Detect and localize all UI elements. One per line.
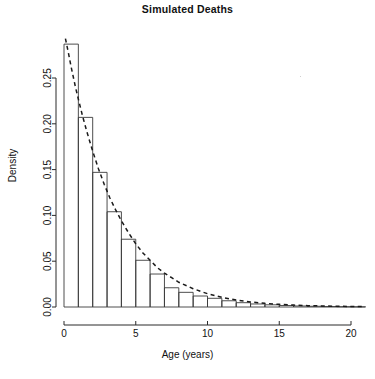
x-tick-label: 15 bbox=[274, 328, 286, 339]
histogram-bar bbox=[121, 239, 135, 307]
x-tick-label: 5 bbox=[133, 328, 139, 339]
histogram-bar bbox=[222, 301, 236, 307]
histogram-bar bbox=[93, 172, 107, 307]
histogram-bars bbox=[64, 44, 365, 307]
histogram-bar bbox=[193, 296, 207, 307]
histogram-bar bbox=[164, 288, 178, 307]
histogram-bar bbox=[236, 303, 250, 307]
histogram-bar bbox=[150, 274, 164, 307]
histogram-bar bbox=[251, 304, 265, 307]
y-tick-label: 0.15 bbox=[42, 159, 53, 179]
histogram-bar bbox=[136, 260, 150, 307]
histogram-bar bbox=[107, 212, 121, 307]
x-tick-label: 10 bbox=[202, 328, 214, 339]
y-tick-label: 0.10 bbox=[42, 205, 53, 225]
chart-figure: Simulated Deaths Age (years) Density 0.0… bbox=[0, 0, 375, 379]
y-tick-label: 0.00 bbox=[42, 297, 53, 317]
x-axis: 05101520 bbox=[61, 321, 357, 339]
y-axis: 0.000.050.100.150.200.25 bbox=[42, 68, 56, 317]
histogram-bar bbox=[64, 44, 78, 307]
y-tick-label: 0.05 bbox=[42, 251, 53, 271]
x-tick-label: 0 bbox=[61, 328, 67, 339]
histogram-bar bbox=[179, 292, 193, 307]
histogram-bar bbox=[78, 117, 92, 307]
y-tick-label: 0.20 bbox=[42, 114, 53, 134]
plot-canvas: 0.000.050.100.150.200.25 05101520 bbox=[0, 0, 375, 379]
density-curve bbox=[65, 39, 365, 307]
x-tick-label: 20 bbox=[345, 328, 357, 339]
histogram-bar bbox=[208, 298, 222, 307]
y-tick-label: 0.25 bbox=[42, 68, 53, 88]
